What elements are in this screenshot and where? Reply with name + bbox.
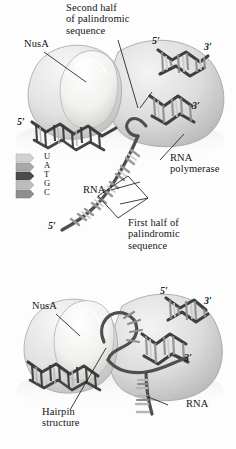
- label-rna-polymerase: RNA polymerase: [170, 152, 219, 175]
- label-rna-bottom: RNA: [186, 398, 208, 409]
- label-3prime-dna-right-top: 3′: [204, 42, 212, 53]
- legend-swatches: [16, 154, 34, 198]
- label-3prime-template-bottom: 3′: [184, 353, 192, 364]
- label-5prime-dna-right-top: 5′: [152, 36, 160, 47]
- label-5prime-rna-top: 5′: [48, 221, 56, 232]
- label-nusa-top: NusA: [24, 38, 49, 49]
- panel-top-artwork: [16, 40, 224, 230]
- label-second-half-palindromic: Second half of palindromic sequence: [66, 2, 130, 36]
- panel-bottom-artwork: [16, 294, 224, 414]
- label-hairpin-structure: Hairpin structure: [42, 406, 80, 429]
- figure-canvas: Second half of palindromic sequence NusA…: [0, 0, 236, 449]
- illustration-artwork: [0, 0, 236, 449]
- label-5prime-dna-left-top: 5′: [17, 117, 25, 128]
- label-nusa-bottom: NusA: [32, 300, 57, 311]
- label-3prime-template-top: 3′: [192, 101, 200, 112]
- label-rna-top: RNA: [83, 184, 105, 195]
- legend-letter-c: C: [44, 188, 50, 197]
- label-first-half-palindromic: First half of palindromic sequence: [128, 217, 180, 251]
- label-5prime-dna-right-bottom: 5′: [160, 286, 168, 297]
- label-3prime-dna-right-bottom: 3′: [204, 296, 212, 307]
